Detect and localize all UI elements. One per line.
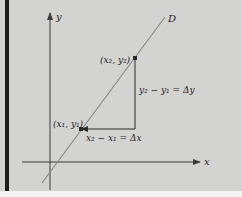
run-label: x₂ − x₁ = Δx bbox=[86, 133, 141, 143]
line-d bbox=[42, 17, 165, 183]
point-p1-label: (x₁, y₁) bbox=[53, 119, 84, 129]
diagram-canvas: y x D (x₂, y₂) (x₁, y₁) y₂ − y₁ = Δy x₂ … bbox=[0, 0, 242, 197]
rise-label: y₂ − y₁ = Δy bbox=[138, 85, 195, 95]
bottom-margin bbox=[0, 191, 242, 197]
diagram-figure: y x D (x₂, y₂) (x₁, y₁) y₂ − y₁ = Δy x₂ … bbox=[0, 0, 242, 197]
line-d-label: D bbox=[167, 13, 176, 24]
x-axis-label: x bbox=[204, 156, 210, 167]
y-axis-label: y bbox=[55, 11, 62, 22]
point-p2 bbox=[133, 56, 137, 60]
point-p2-label: (x₂, y₂) bbox=[100, 55, 131, 65]
